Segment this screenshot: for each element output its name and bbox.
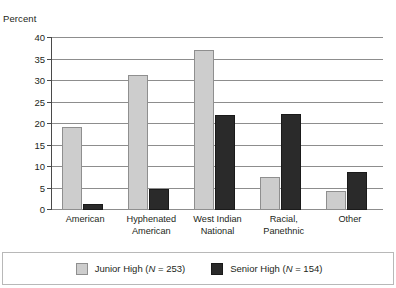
x-axis-tick-labels: AmericanHyphenatedAmericanWest IndianNat… [52,214,383,248]
plot-bars [52,37,383,210]
bar [194,50,214,210]
chart-legend: Junior High (N = 253)Senior High (N = 15… [2,252,394,285]
bar [62,127,82,210]
y-axis-tick-labels: 0510152025303540 [0,0,45,288]
bar [215,115,235,210]
x-tick-label: Other [305,214,395,226]
y-tick-label-35: 35 [3,53,45,64]
y-tick-label-10: 10 [3,161,45,172]
bar [281,114,301,210]
legend-item[interactable]: Junior High (N = 253) [76,263,186,275]
legend-item[interactable]: Senior High (N = 154) [211,263,322,275]
bar-group [184,37,250,210]
x-tick-label-line: Panethnic [239,226,329,238]
x-tick-label-line: Other [305,214,395,226]
legend-swatch [76,263,88,275]
bar-chart: Percent 0510152025303540 AmericanHyphena… [0,0,396,288]
bar [347,172,367,210]
bar [128,75,148,210]
bar [260,177,280,210]
bar-group [317,37,383,210]
y-tick-label-20: 20 [3,118,45,129]
bar [83,204,103,210]
y-tick-label-5: 5 [3,182,45,193]
bar-group [118,37,184,210]
y-tick-label-30: 30 [3,75,45,86]
legend-label: Junior High (N = 253) [95,263,186,274]
y-tick-label-0: 0 [3,204,45,215]
y-tick-label-15: 15 [3,139,45,150]
legend-label: Senior High (N = 154) [230,263,322,274]
bar [326,191,346,210]
bar-group [251,37,317,210]
y-tick-label-40: 40 [3,32,45,43]
bar [149,189,169,210]
bar-group [52,37,118,210]
legend-swatch [211,263,223,275]
y-tick-label-25: 25 [3,96,45,107]
